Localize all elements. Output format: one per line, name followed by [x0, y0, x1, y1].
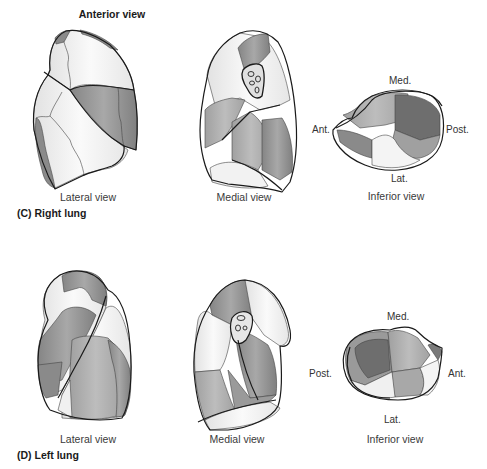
left-lung-lateral-view [38, 271, 131, 420]
right-lung-medial-view-label: Medial view [217, 191, 272, 203]
right-lung-medial-view [200, 31, 297, 192]
right-lung-inferior-view [333, 90, 444, 170]
right-lung-lateral-view [34, 30, 138, 189]
right-lung-lateral-view-label: Lateral view [60, 191, 116, 203]
left-lung-lateral-view-label: Lateral view [60, 433, 116, 445]
anterior-view-heading: Anterior view [79, 8, 146, 20]
panel-c-label: (C) Right lung [17, 207, 86, 219]
left-lung-medial-view-label: Medial view [210, 433, 265, 445]
right-lung-direction-posterior: Post. [446, 124, 469, 135]
left-lung-inferior-view [343, 327, 442, 400]
left-lung-direction-anterior: Ant. [448, 368, 466, 379]
right-lung-direction-medial: Med. [389, 75, 411, 86]
left-lung-direction-posterior: Post. [309, 368, 332, 379]
left-lung-inferior-view-label: Inferior view [367, 433, 424, 445]
left-lung-direction-medial: Med. [387, 311, 409, 322]
left-lung-medial-view [194, 280, 291, 430]
right-lung-direction-lateral: Lat. [391, 173, 408, 184]
left-lung-direction-lateral: Lat. [384, 414, 401, 425]
right-lung-inferior-view-label: Inferior view [368, 190, 425, 202]
right-lung-direction-anterior: Ant. [312, 124, 330, 135]
lung-segments-diagram [0, 0, 487, 469]
panel-d-label: (D) Left lung [17, 449, 79, 461]
